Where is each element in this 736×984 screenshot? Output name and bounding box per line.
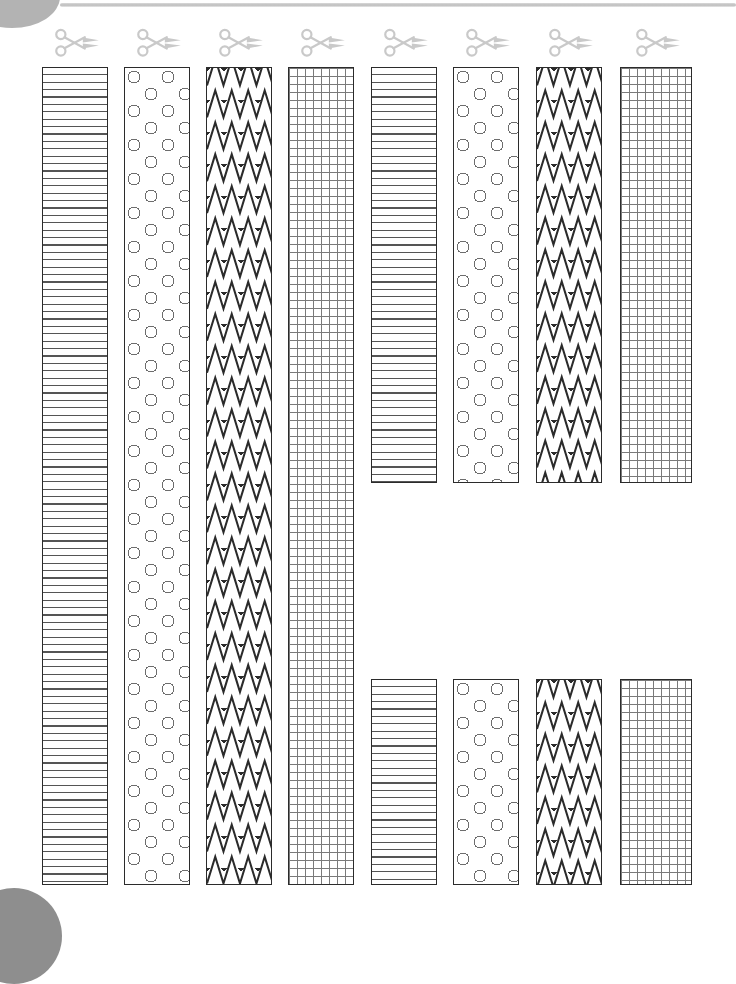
pattern-strip-lines-5-seg1[interactable] <box>371 67 437 483</box>
scissors-icon <box>548 28 594 58</box>
scissors-icon <box>300 28 346 58</box>
scissors-icon <box>465 28 511 58</box>
scissors-icon <box>383 28 429 58</box>
pattern-strip-zigzag-7-seg1[interactable] <box>536 67 602 483</box>
scissors-icon <box>136 28 182 58</box>
strip-column-6 <box>453 0 519 923</box>
strip-column-2 <box>124 0 190 923</box>
pattern-strip-zigzag-7-seg2[interactable] <box>536 679 602 885</box>
pattern-strip-zigzag-3[interactable] <box>206 67 272 885</box>
pattern-strip-circles-6-seg1[interactable] <box>453 67 519 483</box>
pattern-strip-lines-1[interactable] <box>42 67 108 885</box>
scissors-icon <box>218 28 264 58</box>
scissors-icon <box>54 28 100 58</box>
pattern-strip-grid-4[interactable] <box>288 67 354 885</box>
scissors-icon <box>635 28 681 58</box>
strip-column-3 <box>206 0 272 923</box>
strip-column-1 <box>42 0 108 923</box>
pattern-strip-circles-2[interactable] <box>124 67 190 885</box>
pattern-strip-circles-6-seg2[interactable] <box>453 679 519 885</box>
pattern-strip-grid-8-seg1[interactable] <box>620 67 692 483</box>
strip-column-8 <box>620 0 692 923</box>
pattern-strip-grid-8-seg2[interactable] <box>620 679 692 885</box>
strip-column-5 <box>371 0 437 923</box>
strip-column-4 <box>288 0 354 923</box>
strip-column-7 <box>536 0 602 923</box>
pattern-strip-lines-5-seg2[interactable] <box>371 679 437 885</box>
